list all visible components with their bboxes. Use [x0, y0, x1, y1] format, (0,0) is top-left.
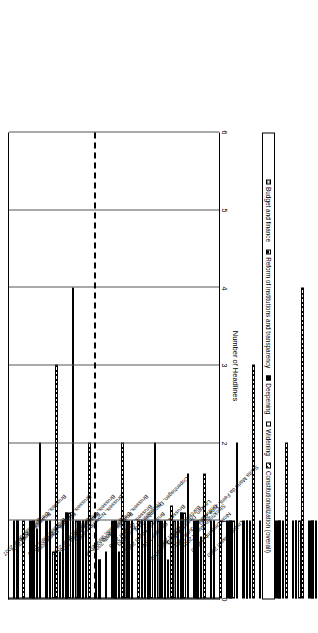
bar — [315, 520, 318, 598]
bar — [249, 520, 252, 598]
bar-row — [288, 132, 291, 598]
bar-row — [282, 132, 285, 598]
legend-swatch — [266, 421, 272, 427]
legend-item: Constitutionalization (overall) — [265, 462, 272, 552]
bar-row — [295, 132, 298, 598]
bar — [292, 520, 295, 598]
chart: Brussels, June 2007Brussels, March 2007B… — [0, 0, 318, 633]
bar-row — [275, 132, 278, 598]
bar-row — [278, 132, 281, 598]
bar-row — [315, 132, 318, 598]
legend-swatch — [266, 375, 272, 381]
bar — [295, 520, 298, 598]
bar — [275, 520, 278, 598]
bar-row — [301, 132, 304, 598]
bar-row — [305, 132, 308, 598]
legend-label: Reform of institutions and transparency — [265, 257, 272, 368]
bar-row — [298, 132, 301, 598]
bar-group — [239, 132, 255, 598]
bar — [285, 442, 288, 598]
bar-row — [292, 132, 295, 598]
bar-row — [249, 132, 252, 598]
category-axis-labels: Brussels, June 2007Brussels, March 2007B… — [0, 132, 212, 599]
tick-label-0: 0 — [220, 597, 229, 601]
tick-label-5: 5 — [220, 208, 229, 212]
chart-legend: Constitutionalization (overall)WideningD… — [262, 132, 275, 599]
legend-label: Budget and finance — [265, 187, 272, 242]
legend-label: Widening — [265, 429, 272, 456]
value-axis-title: Number of Headlines — [231, 132, 240, 599]
legend-swatch — [266, 462, 272, 468]
bar-row — [311, 132, 314, 598]
tick-label-3: 3 — [220, 364, 229, 368]
bar — [242, 520, 245, 598]
bar — [252, 365, 255, 599]
bar — [311, 520, 314, 598]
bar-row — [252, 132, 255, 598]
legend-swatch — [266, 249, 272, 255]
bar-row — [242, 132, 245, 598]
bar-group — [304, 132, 318, 598]
bar — [278, 520, 281, 598]
bar — [246, 520, 249, 598]
bar — [301, 287, 304, 598]
bar — [308, 520, 311, 598]
tick-label-4: 4 — [220, 286, 229, 290]
bar-group — [288, 132, 304, 598]
tick-label-2: 2 — [220, 441, 229, 445]
bar — [282, 520, 285, 598]
legend-item: Budget and finance — [265, 179, 272, 242]
bar-row — [308, 132, 311, 598]
bar — [259, 520, 262, 598]
legend-swatch — [266, 179, 272, 185]
legend-label: Constitutionalization (overall) — [265, 470, 272, 552]
legend-item: Deepening — [265, 375, 272, 414]
bar-row — [285, 132, 288, 598]
legend-item: Reform of institutions and transparency — [265, 249, 272, 368]
bar-row — [255, 132, 258, 598]
chart-page: Brussels, June 2007Brussels, March 2007B… — [0, 0, 318, 633]
legend-item: Widening — [265, 421, 272, 456]
rotated-chart-container: Brussels, June 2007Brussels, March 2007B… — [0, 0, 318, 633]
tick-label-1: 1 — [220, 519, 229, 523]
tick-label-6: 6 — [220, 130, 229, 134]
bar-row — [246, 132, 249, 598]
bar-row — [259, 132, 262, 598]
bar — [298, 520, 301, 598]
legend-label: Deepening — [265, 383, 272, 414]
